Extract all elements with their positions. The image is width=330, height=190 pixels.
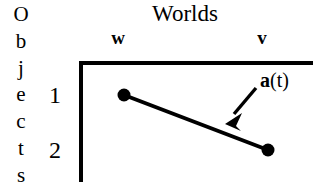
plot-graphics	[0, 0, 330, 190]
figure-panel: O b j e c t s Worlds w v 1 2 a(t)	[0, 0, 330, 190]
annotation-arrow-head	[225, 113, 242, 131]
data-point-marker-w1	[118, 89, 131, 102]
annotation-arrow-shaft	[234, 88, 256, 114]
data-line-segment	[124, 95, 268, 150]
data-point-marker-v2	[262, 144, 275, 157]
